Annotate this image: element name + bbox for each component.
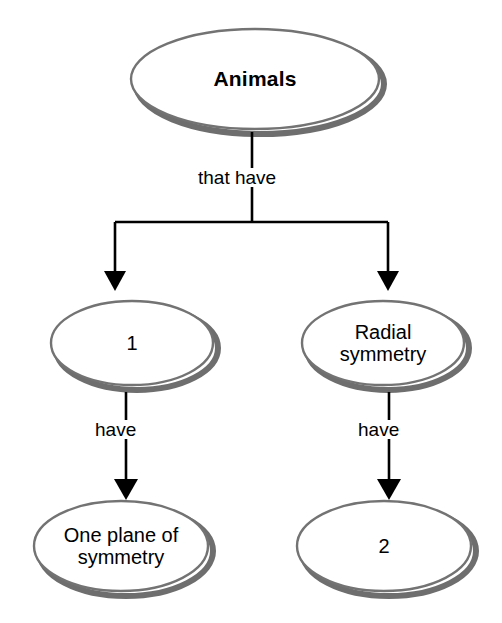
- arrowhead-to-right-bottom: [377, 479, 401, 500]
- edge-label-right-have: have: [355, 420, 402, 439]
- left-bottom-node-ellipse[interactable]: [34, 501, 208, 591]
- concept-map-canvas: Animals 1 Radial symmetry One plane of s…: [0, 0, 502, 623]
- right-bottom-node-ellipse[interactable]: [297, 501, 471, 591]
- ellipse-outlines: [34, 29, 471, 591]
- left-middle-node-ellipse[interactable]: [51, 301, 213, 385]
- arrowhead-to-left-bottom: [114, 479, 138, 500]
- right-middle-node-ellipse[interactable]: [302, 301, 464, 385]
- edge-label-left-have: have: [92, 420, 139, 439]
- concept-map-graphics: [0, 0, 502, 623]
- arrowhead-to-left-middle: [104, 271, 126, 291]
- arrowhead-to-right-middle: [377, 271, 399, 291]
- edge-label-that-have: that have: [195, 168, 279, 187]
- root-node-ellipse[interactable]: [131, 29, 379, 129]
